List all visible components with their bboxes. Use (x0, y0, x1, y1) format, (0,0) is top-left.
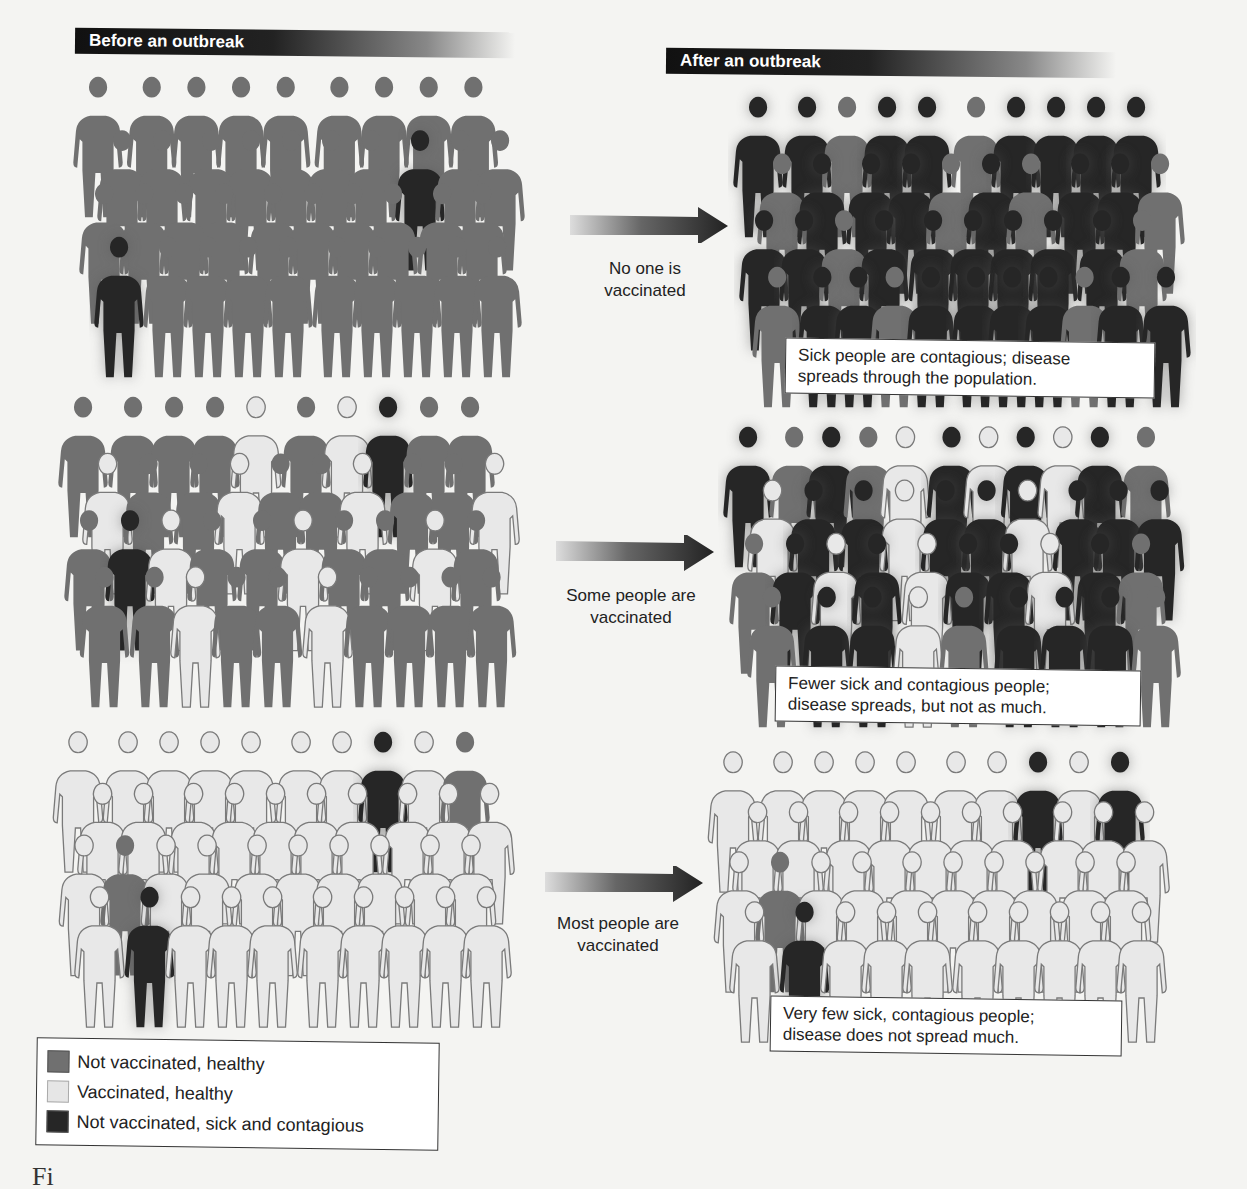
arrow-label-no-vaccination: No one is vaccinated (555, 258, 735, 302)
swatch-sick (46, 1110, 68, 1132)
population-before-some-vaccination (65, 410, 545, 690)
arrow-right-icon (545, 866, 705, 902)
before-outbreak-header: Before an outbreak (75, 28, 515, 59)
before-outbreak-title: Before an outbreak (89, 31, 244, 52)
population-before-no-vaccination (80, 90, 550, 360)
arrow-right-icon (570, 207, 730, 243)
arrow-label-most-vaccination: Most people are vaccinated (528, 913, 708, 957)
figure-caption: Fi (32, 1162, 54, 1189)
after-outbreak-title: After an outbreak (680, 51, 821, 71)
population-before-most-vaccination (60, 745, 540, 1010)
legend-item-sick: Not vaccinated, sick and contagious (46, 1106, 427, 1141)
arrow-right-icon (556, 535, 716, 571)
population-after-most-vaccination (715, 765, 1195, 1025)
caption-most-vaccination: Very few sick, contagious people; diseas… (770, 996, 1123, 1057)
arrow-label-some-vaccination: Some people are vaccinated (541, 585, 721, 629)
swatch-unvaccinated-healthy (47, 1050, 69, 1072)
swatch-vaccinated-healthy (47, 1080, 69, 1102)
caption-some-vaccination: Fewer sick and contagious people; diseas… (775, 665, 1142, 726)
caption-no-vaccination: Sick people are contagious; disease spre… (785, 337, 1156, 398)
after-outbreak-header: After an outbreak (666, 48, 1116, 79)
legend: Not vaccinated, healthy Vaccinated, heal… (35, 1037, 439, 1151)
